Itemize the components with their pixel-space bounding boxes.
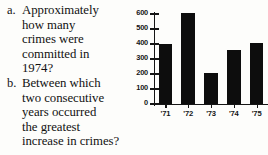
bar-74 bbox=[227, 50, 241, 104]
chart-figure: 0100200300400500600 '71'72'73'74'75 bbox=[128, 8, 268, 130]
question-text-b: Between which two consecutive years occu… bbox=[22, 76, 136, 149]
x-tick-74 bbox=[234, 104, 235, 108]
question-list: a. Approximately how many crimes were co… bbox=[0, 0, 136, 155]
bar-71 bbox=[159, 44, 173, 104]
x-tick-71 bbox=[165, 104, 166, 108]
question-item-a: a. Approximately how many crimes were co… bbox=[0, 3, 136, 76]
question-a-line-2: how many bbox=[22, 18, 136, 33]
x-tick-label-71: '71 bbox=[161, 109, 171, 118]
bars-layer bbox=[154, 8, 268, 104]
y-tick-label-400: 400 bbox=[136, 38, 148, 47]
question-text-a: Approximately how many crimes were commi… bbox=[22, 3, 136, 76]
question-b-line-2: two consecutive bbox=[22, 91, 136, 106]
question-a-line-4: committed in bbox=[22, 47, 136, 62]
x-tick-73 bbox=[211, 104, 212, 108]
question-b-line-4: the greatest bbox=[22, 120, 136, 135]
question-a-line-1: Approximately bbox=[22, 3, 136, 18]
x-tick-75 bbox=[257, 104, 258, 108]
y-tick-label-0: 0 bbox=[144, 98, 148, 107]
worksheet-page: a. Approximately how many crimes were co… bbox=[0, 0, 268, 155]
question-a-line-3: crimes were bbox=[22, 32, 136, 47]
bar-73 bbox=[204, 73, 218, 104]
y-tick-label-100: 100 bbox=[136, 83, 148, 92]
question-marker-b: b. bbox=[0, 76, 22, 91]
question-a-line-5: 1974? bbox=[22, 61, 136, 76]
question-b-line-5: increase in crimes? bbox=[22, 134, 136, 149]
x-tick-label-72: '72 bbox=[183, 109, 193, 118]
x-tick-label-75: '75 bbox=[252, 109, 262, 118]
y-tick-label-200: 200 bbox=[136, 68, 148, 77]
y-tick-label-300: 300 bbox=[136, 53, 148, 62]
crime-bar-chart: 0100200300400500600 '71'72'73'74'75 bbox=[128, 0, 268, 155]
question-b-line-3: years occurred bbox=[22, 105, 136, 120]
y-tick-label-600: 600 bbox=[136, 8, 148, 17]
x-tick-72 bbox=[188, 104, 189, 108]
question-marker-a: a. bbox=[0, 3, 22, 18]
bar-72 bbox=[181, 13, 195, 105]
x-tick-label-73: '73 bbox=[206, 109, 216, 118]
bar-75 bbox=[250, 43, 264, 105]
question-item-b: b. Between which two consecutive years o… bbox=[0, 76, 136, 149]
y-tick-label-500: 500 bbox=[136, 23, 148, 32]
x-tick-label-74: '74 bbox=[229, 109, 239, 118]
question-b-line-1: Between which bbox=[22, 76, 136, 91]
